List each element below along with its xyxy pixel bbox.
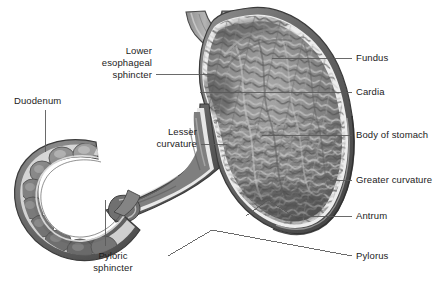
label-duodenum: Duodenum	[14, 95, 61, 107]
label-line: Antrum	[356, 210, 387, 222]
label-line: curvature	[156, 138, 197, 150]
label-line: sphincter	[73, 262, 153, 274]
label-line: Pylorus	[356, 250, 388, 262]
label-line: Fundus	[356, 52, 388, 64]
anatomy-illustration	[0, 0, 436, 287]
label-lesser-curvature: Lesser curvature	[156, 126, 197, 150]
label-line: esophageal	[102, 57, 152, 69]
label-line: Greater curvature	[356, 174, 432, 186]
label-line: Body of stomach	[356, 129, 428, 141]
label-fundus: Fundus	[356, 52, 388, 64]
label-lower-esophageal-sphincter: Lower esophageal sphincter	[102, 45, 152, 81]
label-line: sphincter	[102, 69, 152, 81]
label-line: Duodenum	[14, 95, 61, 107]
label-cardia: Cardia	[356, 86, 385, 98]
label-pylorus: Pylorus	[356, 250, 388, 262]
label-antrum: Antrum	[356, 210, 387, 222]
label-greater-curvature: Greater curvature	[356, 174, 432, 186]
label-line: Pyloric	[73, 250, 153, 262]
label-line: Cardia	[356, 86, 385, 98]
label-body-of-stomach: Body of stomach	[356, 129, 428, 141]
leader-pylorus	[168, 230, 352, 256]
label-line: Lesser	[156, 126, 197, 138]
label-line: Lower	[102, 45, 152, 57]
label-pyloric-sphincter: Pyloric sphincter	[73, 250, 153, 274]
stomach-anatomy-figure: Lower esophageal sphincter Duodenum Less…	[0, 0, 436, 287]
